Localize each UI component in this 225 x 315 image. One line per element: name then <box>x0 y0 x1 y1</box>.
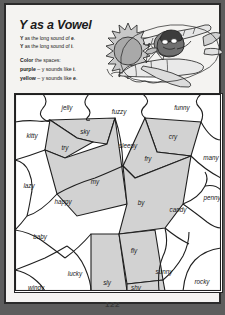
puzzle-word: sky <box>80 128 90 136</box>
puzzle-word: rocky <box>194 278 210 286</box>
puzzle-word: jelly <box>61 104 74 112</box>
key-color-word: purple <box>20 66 36 72</box>
puzzle-word: happy <box>54 198 72 206</box>
color-instruction-lead: Color <box>20 57 33 63</box>
puzzle-word: fuzzy <box>112 108 128 116</box>
rule-tail: . <box>74 35 75 41</box>
page-number: 122 <box>0 300 225 309</box>
color-instruction: Color the spaces: <box>20 57 61 63</box>
rule-line-e: Y as the long sound of e. <box>20 35 75 41</box>
puzzle-word: kitty <box>26 132 38 140</box>
color-instruction-rest: the spaces: <box>33 57 60 63</box>
puzzle-word: by <box>138 199 146 207</box>
puzzle-word: baby <box>33 233 48 241</box>
puzzle-word: lucky <box>68 270 83 278</box>
rule-tail: . <box>72 43 73 49</box>
color-key-purple: purple – y sounds like i. <box>20 66 76 72</box>
region-fly <box>119 230 163 284</box>
rule-text: as the long sound of <box>23 35 71 41</box>
puzzle-word: windy <box>28 284 45 291</box>
puzzle-word: cry <box>169 133 178 141</box>
page-title: Y as a Vowel <box>19 18 92 32</box>
puzzle-word: sly <box>103 279 112 287</box>
color-key-yellow: yellow – y sounds like e. <box>20 75 77 81</box>
puzzle-word: shy <box>131 284 142 291</box>
puzzle-word: fly <box>131 247 138 255</box>
rule-text: as the long sound of <box>23 43 71 49</box>
puzzle-word: try <box>62 144 70 152</box>
puzzle-word: penny <box>202 194 221 202</box>
puzzle-word: lazy <box>23 182 35 190</box>
rule-line-i: Y as the long sound of i. <box>20 43 74 49</box>
puzzle-regions-svg[interactable]: jelly fuzzy funny kitty sky try sleepy c… <box>15 94 221 291</box>
puzzle-word: funny <box>174 104 190 112</box>
key-description: y sounds like <box>42 66 73 72</box>
key-tail: . <box>75 66 76 72</box>
puzzle-word: fry <box>145 155 153 163</box>
worksheet-page: Y as a Vowel Y as the long sound of e. Y… <box>0 0 225 315</box>
puzzle-word: sunny <box>156 268 174 276</box>
tail-fin <box>203 33 223 56</box>
puzzle-word: sleepy <box>119 142 138 150</box>
pilot-in-biplane-illustration <box>105 13 223 91</box>
worksheet-header: Y as a Vowel Y as the long sound of e. Y… <box>14 13 223 91</box>
page-frame: Y as a Vowel Y as the long sound of e. Y… <box>4 3 221 304</box>
coloring-puzzle[interactable]: jelly fuzzy funny kitty sky try sleepy c… <box>14 93 223 293</box>
puzzle-word: many <box>203 154 219 162</box>
puzzle-word: candy <box>170 206 188 214</box>
key-description: y sounds like <box>42 75 73 81</box>
puzzle-word: my <box>91 178 100 186</box>
key-color-word: yellow <box>20 75 36 81</box>
key-tail: . <box>76 75 77 81</box>
artwork-svg <box>105 13 223 91</box>
